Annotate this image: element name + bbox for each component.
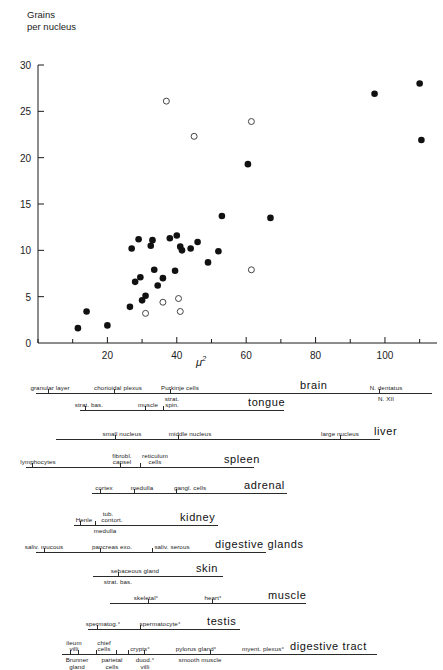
- scale-line: [62, 654, 377, 655]
- x-tick-label: 20: [102, 350, 114, 361]
- chart-axes: 20406080100051015202530: [20, 60, 437, 361]
- data-point-filled: [179, 247, 186, 254]
- data-point-filled: [135, 236, 142, 243]
- scale-line: [92, 493, 287, 494]
- data-point-filled: [128, 245, 135, 252]
- x-tick-label: 80: [310, 350, 322, 361]
- scale-tick: [152, 548, 153, 552]
- data-point-open: [160, 299, 166, 305]
- scale-tick: [116, 650, 117, 654]
- tissue-label: middle nucleus: [169, 430, 212, 437]
- tissue-label: cells: [106, 663, 119, 670]
- tissue-label: gangl. cells: [174, 484, 206, 491]
- tissue-scale-diagram: granular layerchorioidal plexusPurkinje …: [0, 371, 443, 667]
- tissue-label: spin.: [165, 401, 179, 408]
- chart-data-points: [75, 80, 425, 331]
- tissue-label: Henle: [76, 516, 93, 523]
- data-point-filled: [194, 239, 201, 246]
- organ-label: skin: [196, 562, 218, 574]
- y-tick-label: 0: [25, 338, 31, 349]
- tissue-label: smooth muscle: [179, 656, 222, 663]
- tissue-label: medulla: [94, 527, 116, 534]
- scale-line: [74, 525, 218, 526]
- tissue-label: N. XII: [378, 395, 394, 402]
- scale-line: [110, 603, 306, 604]
- tissue-label: villi: [69, 645, 78, 652]
- data-point-open: [143, 310, 149, 316]
- scale-line: [26, 467, 254, 468]
- tissue-label: large nucleus: [321, 430, 359, 437]
- scale-line: [80, 410, 284, 411]
- data-point-filled: [127, 304, 134, 311]
- tissue-label: myent. plexus°: [242, 645, 284, 652]
- data-point-filled: [154, 282, 161, 289]
- organ-label: digestive glands: [215, 538, 304, 550]
- data-point-open: [177, 308, 183, 314]
- organ-label: muscle: [268, 589, 306, 601]
- tissue-label: saliv. mucous: [25, 543, 63, 550]
- scale-line: [56, 439, 380, 440]
- x-tick-label: 60: [241, 350, 253, 361]
- tissue-label: cortex: [95, 484, 112, 491]
- x-tick-label: 100: [377, 350, 394, 361]
- data-point-filled: [167, 235, 174, 242]
- tissue-label: cells: [149, 458, 162, 465]
- tissue-label: duod.°: [136, 656, 155, 663]
- scale-tick: [128, 650, 129, 654]
- data-point-filled: [160, 275, 167, 282]
- tissue-label: spermatocyte°: [140, 620, 181, 627]
- data-point-filled: [215, 248, 222, 255]
- organ-label: brain: [300, 379, 327, 391]
- tissue-label: gland: [69, 663, 85, 670]
- data-point-filled: [416, 80, 423, 87]
- tissue-label: muscle: [138, 401, 158, 408]
- data-point-open: [248, 119, 254, 125]
- data-point-filled: [75, 325, 82, 332]
- organ-label: kidney: [180, 511, 215, 523]
- organ-label: spleen: [224, 453, 260, 465]
- tissue-label: lymphocytes: [20, 458, 56, 465]
- scale-line: [36, 393, 432, 394]
- y-tick-label: 15: [20, 199, 32, 210]
- tissue-label: N. dentatus: [370, 384, 403, 391]
- tissue-label: pancreas exo.: [92, 543, 132, 550]
- data-point-filled: [173, 232, 180, 239]
- data-point-open: [248, 267, 254, 273]
- tissue-label: cells: [98, 645, 111, 652]
- data-point-filled: [151, 266, 158, 273]
- data-point-filled: [219, 213, 226, 220]
- scale-line: [36, 552, 266, 553]
- x-tick-label: 40: [171, 350, 183, 361]
- organ-label: testis: [207, 615, 236, 627]
- tissue-label: chorioidal plexus: [94, 384, 142, 391]
- data-point-filled: [418, 137, 425, 144]
- data-point-filled: [371, 90, 378, 97]
- tissue-label: heart°: [204, 594, 221, 601]
- y-tick-label: 30: [20, 60, 32, 71]
- tissue-label: contort.: [101, 516, 122, 523]
- data-point-filled: [172, 267, 179, 274]
- data-point-open: [163, 98, 169, 104]
- tissue-label: strat. bas.: [104, 578, 132, 585]
- organ-label: adrenal: [244, 479, 285, 491]
- y-tick-label: 25: [20, 106, 32, 117]
- tissue-label: parietal: [101, 656, 122, 663]
- data-point-filled: [149, 237, 156, 244]
- data-point-filled: [187, 245, 194, 252]
- data-point-open: [191, 133, 197, 139]
- scatter-chart-svg: Grains per nucleus 204060801000510152025…: [0, 0, 443, 370]
- data-point-filled: [132, 279, 139, 286]
- organ-label: digestive tract: [290, 640, 367, 652]
- data-point-filled: [83, 308, 90, 315]
- data-point-filled: [205, 259, 212, 266]
- y-tick-label: 10: [20, 245, 32, 256]
- tissue-label: strat. bas.: [75, 401, 103, 408]
- scale-tick: [163, 406, 164, 410]
- organ-label: tongue: [248, 396, 285, 408]
- scale-line: [88, 629, 240, 630]
- tissue-label: spermatog.°: [86, 620, 121, 627]
- tissue-label: villi: [140, 663, 149, 670]
- tissue-label: crypts°: [130, 645, 150, 652]
- scale-line: [93, 576, 223, 577]
- tissue-label: skeletal°: [134, 594, 158, 601]
